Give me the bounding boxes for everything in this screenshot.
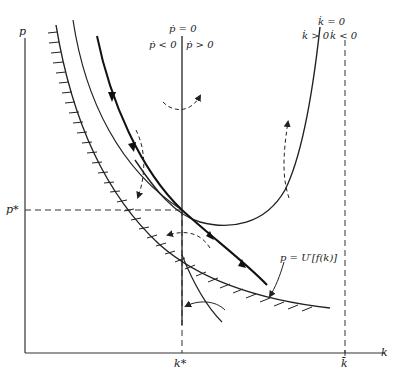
flow-arrow-middle [168,233,210,248]
p-dot-negative-label: ṗ < 0 [149,40,177,50]
saddle-arrow-upper-2 [128,142,136,152]
p-dot-zero-label: ṗ = 0 [169,24,197,34]
k-star-label: k* [174,358,186,369]
k-dot-negative-label: k̇ < 0 [330,31,357,41]
p-star-label: p* [6,204,19,215]
boundary-curve-label: p = U′[f(k)] [280,253,337,263]
boundary-hatching [48,32,312,311]
k-dot-zero-locus [135,27,320,225]
k-dot-positive-label: k̇ > 0 [302,31,329,41]
boundary-label-pointer [270,262,284,296]
y-axis-label: p [19,26,26,37]
k-dot-zero-label: k̇ = 0 [318,17,345,27]
x-axis-label: k [381,347,388,358]
phase-diagram [0,0,395,372]
flow-arrow-bottom [186,302,225,310]
p-dot-positive-label: ṗ > 0 [186,40,214,50]
k-bar-label: k̄ [341,358,348,369]
